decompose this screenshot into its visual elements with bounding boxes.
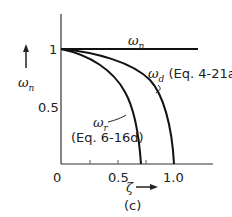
wd-label: ωd (Eq. 4-21a) <box>148 67 232 84</box>
caption: (c) <box>124 199 141 212</box>
chart: ωn 1 0.5 0 0.5 1.0 ζ (c) ωn ωd (Eq. 4-21… <box>0 0 232 217</box>
y-arrow-head-icon <box>23 44 29 52</box>
y-tick-label-1: 1 <box>49 43 57 56</box>
x-tick-label-0: 0 <box>53 171 61 184</box>
x-tick-label-10: 1.0 <box>163 171 184 184</box>
wr-leader <box>108 115 126 122</box>
wn-label: ωn <box>128 34 144 51</box>
y-axis-label: ωn <box>18 76 34 93</box>
y-tick-label-05: 0.5 <box>38 101 59 114</box>
x-arrow-head-icon <box>150 184 158 190</box>
wr-eq-label: (Eq. 6-16d) <box>71 131 144 144</box>
x-axis-label: ζ <box>126 181 133 194</box>
